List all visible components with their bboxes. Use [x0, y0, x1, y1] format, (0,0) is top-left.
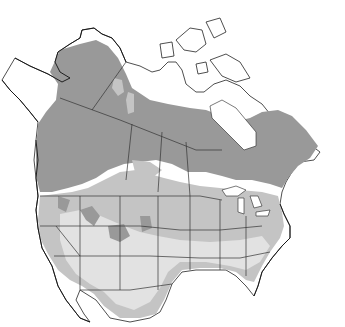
range-map	[0, 0, 345, 327]
